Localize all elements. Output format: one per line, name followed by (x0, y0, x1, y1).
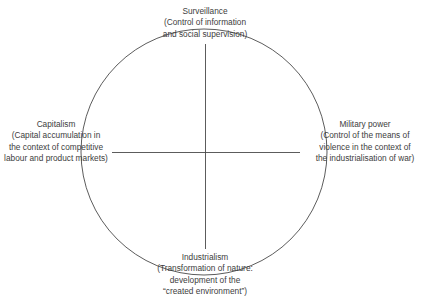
node-title-military-power: Military power (304, 119, 426, 130)
node-desc-capitalism-line-3: labour and product markets) (2, 153, 110, 164)
node-title-capitalism: Capitalism (2, 119, 110, 130)
node-desc-capitalism-line-1: (Capital accumulation in (2, 130, 110, 141)
node-title-industrialism: Industrialism (122, 252, 288, 263)
node-label-capitalism: Capitalism (Capital accumulation in the … (2, 119, 110, 165)
node-label-military-power: Military power (Control of the means of … (304, 119, 426, 165)
node-label-surveillance: Surveillance (Control of information and… (117, 6, 293, 40)
node-desc-industrialism-line-1: (Transformation of nature: (122, 263, 288, 274)
node-desc-military-power-line-2: violence in the context of (304, 142, 426, 153)
node-desc-military-power-line-1: (Control of the means of (304, 130, 426, 141)
node-desc-industrialism-line-3: “created environment”) (122, 286, 288, 297)
node-label-industrialism: Industrialism (Transformation of nature:… (122, 252, 288, 298)
node-desc-military-power-line-3: the industrialisation of war) (304, 153, 426, 164)
node-desc-capitalism-line-2: the context of competitive (2, 142, 110, 153)
node-title-surveillance: Surveillance (117, 6, 293, 17)
outer-circle (81, 29, 327, 275)
node-desc-surveillance-line-1: (Control of information (117, 17, 293, 28)
node-desc-surveillance-line-2: and social supervision) (117, 29, 293, 40)
diagram-canvas: Surveillance (Control of information and… (0, 0, 427, 302)
node-desc-industrialism-line-2: development of the (122, 275, 288, 286)
